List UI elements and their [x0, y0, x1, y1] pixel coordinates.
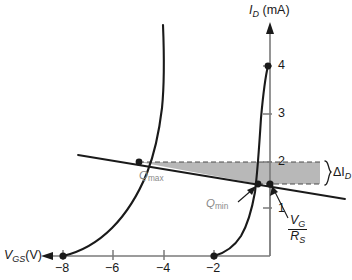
q-min-symbol: Q: [206, 197, 215, 209]
point-q-max: [136, 159, 143, 166]
label-delta-id: ΔID: [333, 166, 351, 181]
brace-delta-id-icon: [325, 161, 331, 185]
point-idss-max: [265, 63, 272, 70]
x-tick-label-minus2: −2: [206, 262, 220, 275]
y-tick-label-3: 3: [278, 107, 285, 120]
y-axis-title: ID (mA): [249, 4, 290, 19]
vg-over-rs-denominator: RS: [288, 229, 307, 245]
x-axis-arrowhead-icon: [41, 252, 53, 260]
transfer-curve-max: [63, 25, 164, 256]
y-axis-symbol-subscript: D: [252, 9, 259, 19]
q-max-symbol: Q: [139, 169, 148, 181]
x-axis-unit: (V): [25, 248, 42, 262]
vg-over-rs-numerator: VG: [288, 214, 307, 229]
transfer-curve-min: [214, 66, 268, 256]
x-tick-label-minus8: −8: [55, 262, 69, 275]
delta-id-symbol: ΔI: [333, 165, 345, 179]
rs-denominator-subscript: S: [299, 234, 305, 244]
y-axis-arrowhead-icon: [266, 22, 274, 34]
rs-denominator-symbol: R: [290, 229, 299, 243]
point-pinchoff-minus8: [59, 252, 66, 259]
label-q-min: Qmin: [206, 198, 228, 212]
label-vg-over-rs: VG RS: [288, 214, 307, 244]
x-axis-symbol-subscript: GS: [12, 254, 25, 264]
vg-numerator-subscript: G: [298, 219, 305, 229]
y-tick-label-2: 2: [278, 155, 285, 168]
point-pinchoff-minus2: [210, 252, 217, 259]
x-axis-title: VGS(V): [4, 249, 42, 264]
y-axis-unit: (mA): [262, 3, 289, 17]
figure-canvas: ID (mA) VGS(V) 1 2 3 4 −8 −6 −4 −2 Qmax …: [0, 0, 352, 280]
y-tick-label-1: 1: [278, 202, 285, 215]
q-min-subscript: min: [215, 202, 228, 211]
q-max-subscript: max: [148, 174, 164, 183]
vg-over-rs-fraction: VG RS: [288, 214, 307, 244]
label-q-max: Qmax: [139, 170, 164, 184]
x-tick-label-minus4: −4: [156, 262, 170, 275]
delta-id-subscript: D: [345, 171, 352, 181]
point-vg-over-rs-intercept: [266, 180, 273, 187]
y-tick-label-4: 4: [278, 59, 285, 72]
x-tick-label-minus6: −6: [105, 262, 119, 275]
